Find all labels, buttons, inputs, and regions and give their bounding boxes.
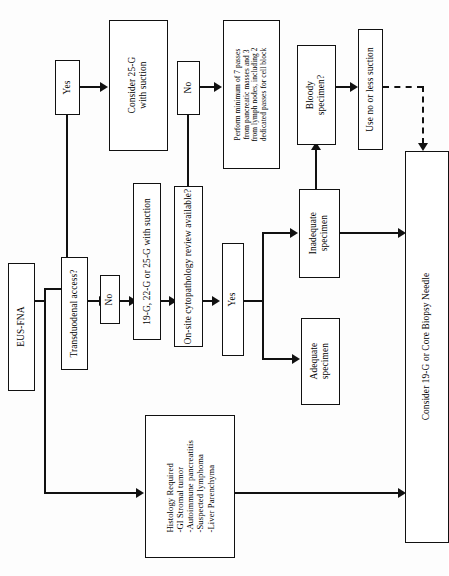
- node-eus-fna-label: EUS-FNA: [16, 307, 27, 347]
- node-transduodenal-access[interactable]: Transduodenal access?: [61, 257, 88, 370]
- node-branch-no-1[interactable]: No: [100, 275, 120, 324]
- node-onsite-review-label: On-site cytopathology review available?: [183, 189, 194, 345]
- node-transduodenal-access-label: Transduodenal access?: [69, 270, 80, 358]
- edge-dashed-usesuction-horizontal: [383, 86, 423, 88]
- node-adequate-specimen-label: Adequate specimen: [309, 343, 331, 380]
- node-inadequate-specimen-label: Inadequate specimen: [308, 212, 330, 254]
- edge-yes1-to-consider25g: [80, 86, 101, 88]
- edge-trunk-down-to-histology: [44, 300, 46, 494]
- node-consider-25g[interactable]: Consider 25-G with suction: [109, 20, 168, 151]
- arrowhead-to-histology: [136, 488, 144, 498]
- node-branch-yes-2-label: Yes: [227, 293, 238, 307]
- node-consider-19g-core[interactable]: Consider 19-G or Core Biopsy Needle: [405, 151, 449, 543]
- arrowhead-bloody-usesuction: [350, 82, 358, 92]
- node-branch-yes-1-label: Yes: [62, 81, 73, 95]
- node-branch-yes-1[interactable]: Yes: [55, 60, 80, 115]
- edge-inadequate-to-final: [340, 232, 400, 234]
- edge-yes2-split: [244, 300, 264, 302]
- edge-onsite-to-no2: [187, 115, 189, 187]
- node-bloody-specimen-label: Bloody specimen?: [305, 75, 327, 115]
- arrowhead-yes1-consider25g: [100, 82, 108, 92]
- node-branch-yes-2[interactable]: Yes: [222, 243, 244, 356]
- node-histology-required[interactable]: Histology Required -GI Stromal tumor -Au…: [145, 415, 235, 558]
- node-inadequate-specimen[interactable]: Inadequate specimen: [299, 189, 340, 278]
- arrowhead-dashed-final: [418, 143, 428, 151]
- node-bloody-specimen[interactable]: Bloody specimen?: [297, 45, 336, 145]
- edge-transduodenal-to-yes1: [66, 115, 68, 265]
- edge-trunk-to-transduodenal: [44, 288, 62, 290]
- node-branch-no-1-label: No: [104, 294, 115, 306]
- node-consider-25g-label: Consider 25-G with suction: [127, 57, 149, 114]
- arrowhead-yes2-inadequate: [290, 228, 298, 238]
- edge-dashed-usesuction-vertical: [422, 86, 424, 144]
- node-needle-choice[interactable]: 19-G, 22-G or 25-G with suction: [133, 183, 161, 340]
- node-branch-no-2[interactable]: No: [177, 61, 200, 115]
- node-histology-required-label: Histology Required -GI Stromal tumor -Au…: [165, 440, 216, 532]
- node-onsite-review[interactable]: On-site cytopathology review available?: [174, 186, 203, 347]
- node-eus-fna[interactable]: EUS-FNA: [8, 263, 35, 391]
- arrowhead-yes2-adequate: [292, 354, 300, 364]
- node-branch-no-2-label: No: [183, 82, 194, 94]
- node-consider-19g-core-label: Consider 19-G or Core Biopsy Needle: [421, 273, 432, 421]
- edge-inadequate-to-bloody: [315, 150, 317, 190]
- edge-yes2-to-inadequate: [262, 232, 292, 234]
- edge-trunk-to-histology: [44, 492, 136, 494]
- node-use-no-or-less-suction-label: Use no or less suction: [365, 47, 376, 131]
- node-needle-choice-label: 19-G, 22-G or 25-G with suction: [141, 198, 152, 325]
- arrowhead-no2-performpasses: [214, 82, 222, 92]
- node-adequate-specimen[interactable]: Adequate specimen: [301, 318, 340, 405]
- edge-yes2-split-vertical: [262, 232, 264, 360]
- node-perform-passes-label: Perform minimum of 7 passes from pancrea…: [234, 47, 269, 141]
- arrowhead-onsite-yes2: [212, 296, 220, 306]
- edge-histology-to-final: [235, 492, 401, 494]
- node-use-no-or-less-suction[interactable]: Use no or less suction: [358, 29, 383, 150]
- node-perform-passes[interactable]: Perform minimum of 7 passes from pancrea…: [223, 20, 280, 169]
- edge-yes2-to-adequate: [262, 358, 294, 360]
